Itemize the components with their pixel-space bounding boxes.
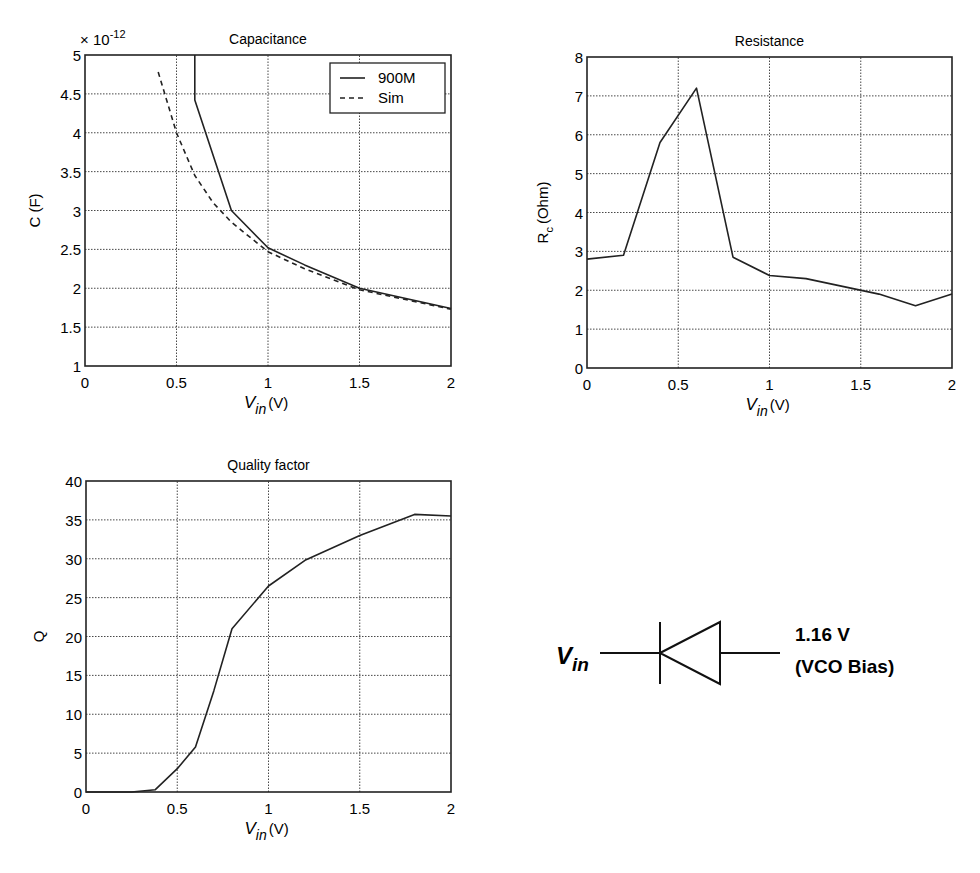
bias-value: 1.16 V [795,624,850,645]
diode-schematic: Vin 1.16 V (VCO Bias) [0,0,980,873]
vin-label: Vin [556,642,589,675]
diode-triangle-icon [660,622,720,684]
bias-note: (VCO Bias) [795,656,894,677]
